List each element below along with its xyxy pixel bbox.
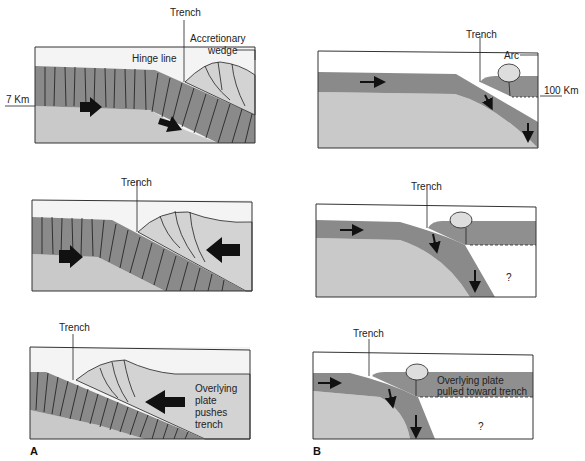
wedge-label: wedge: [207, 45, 238, 56]
pushes-label: pushes: [195, 407, 227, 418]
arc-label: Arc: [504, 50, 519, 61]
depth-7km-label: 7 Km: [6, 94, 29, 105]
depth-100km-label: 100 Km: [544, 85, 578, 96]
trench-label: Trench: [121, 177, 152, 188]
plate-label: plate: [195, 395, 217, 406]
trench-word-label: trench: [195, 419, 223, 430]
accretionary-label: Accretionary: [190, 33, 246, 44]
trench-label: Trench: [466, 29, 497, 40]
overlying-label: Overlying: [195, 383, 237, 394]
unknown-label: ?: [506, 272, 512, 283]
panel-a-top: Trench Accretionary wedge Hinge line 7 K…: [5, 7, 255, 143]
trench-label: Trench: [353, 328, 384, 339]
panel-label-a: A: [30, 445, 38, 457]
panel-a-middle: Trench: [32, 177, 252, 291]
hinge-line-label: Hinge line: [132, 53, 177, 64]
overlying-plate-label: Overlying plate: [437, 375, 504, 386]
unknown-label: ?: [478, 421, 484, 432]
trench-label: Trench: [411, 181, 442, 192]
pulled-toward-trench-label: pulled toward trench: [437, 386, 527, 397]
panel-b-top: Trench Arc 100 Km: [318, 29, 578, 148]
trench-label: Trench: [170, 7, 201, 18]
panel-a-bottom: Trench Overlying plate pushes trench A: [30, 322, 250, 457]
panel-b-bottom: Trench Overlying plate pulled toward tre…: [313, 328, 533, 457]
panel-label-b: B: [313, 445, 321, 457]
subduction-diagram: Trench Accretionary wedge Hinge line 7 K…: [0, 0, 585, 461]
panel-b-middle: Trench ?: [316, 181, 536, 297]
trench-label: Trench: [59, 322, 90, 333]
